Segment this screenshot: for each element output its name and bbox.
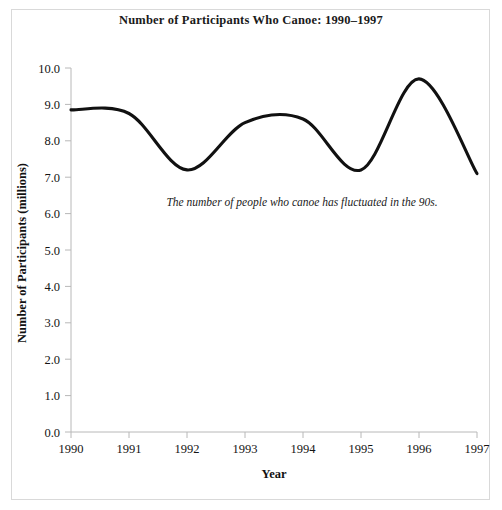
- y-tick-label-9: 9.0: [44, 98, 60, 112]
- y-tick-label-1: 1.0: [44, 389, 60, 403]
- x-tick-label-1995: 1995: [349, 442, 374, 456]
- plot-area: 10.0 9.0 8.0 7.0 6.0 5.0 4.0 3.0 2.0 1.0…: [0, 0, 502, 510]
- y-axis-ticks: [65, 68, 71, 432]
- y-tick-label-2: 2.0: [44, 353, 60, 367]
- chart-figure: Number of Participants Who Canoe: 1990–1…: [0, 0, 502, 510]
- y-tick-label-10: 10.0: [38, 62, 60, 76]
- y-tick-label-4: 4.0: [44, 280, 60, 294]
- x-tick-label-1997: 1997: [465, 442, 490, 456]
- y-tick-label-8: 8.0: [44, 134, 60, 148]
- y-axis-title: Number of Participants (millions): [15, 163, 29, 343]
- x-tick-label-1993: 1993: [233, 442, 258, 456]
- x-axis-title: Year: [262, 467, 287, 481]
- chart-annotation: The number of people who canoe has fluct…: [166, 196, 437, 209]
- x-tick-label-1996: 1996: [407, 442, 432, 456]
- y-tick-label-7: 7.0: [44, 171, 60, 185]
- y-tick-label-5: 5.0: [44, 244, 60, 258]
- y-tick-label-3: 3.0: [44, 316, 60, 330]
- x-tick-label-1992: 1992: [175, 442, 200, 456]
- data-series-line: [71, 79, 477, 174]
- x-axis-ticks: [71, 432, 477, 438]
- y-tick-label-6: 6.0: [44, 207, 60, 221]
- x-tick-label-1991: 1991: [117, 442, 142, 456]
- x-tick-label-1990: 1990: [59, 442, 84, 456]
- x-tick-label-1994: 1994: [291, 442, 317, 456]
- y-tick-label-0: 0.0: [44, 426, 60, 440]
